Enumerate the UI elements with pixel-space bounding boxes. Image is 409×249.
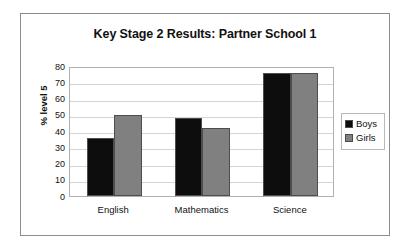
bar-group [175, 68, 230, 196]
legend-item-boys[interactable]: Boys [345, 117, 381, 131]
y-axis-tick-label: 60 [43, 95, 65, 104]
legend-item-girls[interactable]: Girls [345, 131, 381, 145]
x-axis-tick-label: English [69, 204, 157, 216]
x-axis-tick-label: Science [246, 204, 334, 216]
y-axis-tick-label: 40 [43, 128, 65, 137]
bar-english-boys [87, 138, 114, 197]
y-axis-tick-label: 50 [43, 111, 65, 120]
legend-swatch-icon [345, 134, 353, 142]
plot-area [69, 67, 334, 197]
y-axis-tick-label: 10 [43, 176, 65, 185]
x-axis-tick-labels: EnglishMathematicsScience [69, 204, 334, 220]
y-axis-tick-label: 30 [43, 144, 65, 153]
chart-legend: BoysGirls [341, 113, 385, 150]
y-axis-tick-labels: 80706050403020100 [41, 67, 65, 197]
y-axis-tick-label: 80 [43, 63, 65, 72]
y-axis-tick-label: 70 [43, 79, 65, 88]
bar-english-girls [114, 115, 141, 196]
x-axis-tick-label: Mathematics [157, 204, 245, 216]
y-axis-tick-label: 20 [43, 160, 65, 169]
chart-frame: Key Stage 2 Results: Partner School 1 % … [20, 13, 390, 236]
legend-label: Girls [356, 133, 376, 143]
legend-label: Boys [356, 119, 377, 129]
bars-layer [70, 68, 333, 196]
chart-title: Key Stage 2 Results: Partner School 1 [21, 27, 389, 41]
bar-science-girls [291, 73, 318, 197]
bar-mathematics-boys [175, 118, 202, 196]
y-axis-tick-label: 0 [43, 193, 65, 202]
bar-science-boys [263, 73, 290, 197]
bar-group [87, 68, 142, 196]
legend-swatch-icon [345, 120, 353, 128]
bar-group [263, 68, 318, 196]
bar-mathematics-girls [202, 128, 229, 196]
